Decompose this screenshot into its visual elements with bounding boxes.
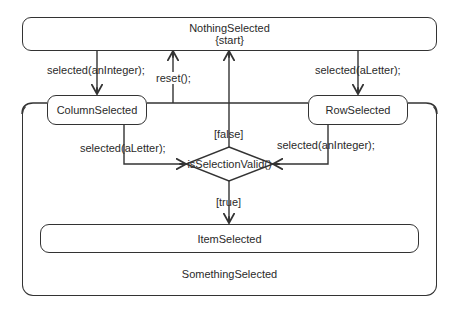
label-reset: reset();	[156, 72, 191, 84]
label-nothing-to-column: selected(anInteger);	[47, 64, 145, 76]
state-item-selected[interactable]: ItemSelected	[40, 224, 419, 253]
label-column-to-decision: selected(aLetter);	[80, 142, 166, 154]
label-nothing-to-row: selected(aLetter);	[315, 64, 401, 76]
state-item-selected-name: ItemSelected	[41, 233, 418, 245]
guard-false: [false]	[214, 128, 243, 140]
state-column-selected[interactable]: ColumnSelected	[47, 95, 147, 125]
guard-true: [true]	[216, 196, 241, 208]
state-column-selected-name: ColumnSelected	[48, 104, 146, 116]
decision-label: isSelectionValid()	[186, 158, 273, 170]
state-row-selected-name: RowSelected	[309, 104, 407, 116]
state-something-selected-name: SomethingSelected	[22, 268, 437, 280]
container-top-edge	[0, 0, 455, 310]
state-row-selected[interactable]: RowSelected	[308, 95, 408, 125]
label-row-to-decision: selected(anInteger);	[277, 139, 375, 151]
